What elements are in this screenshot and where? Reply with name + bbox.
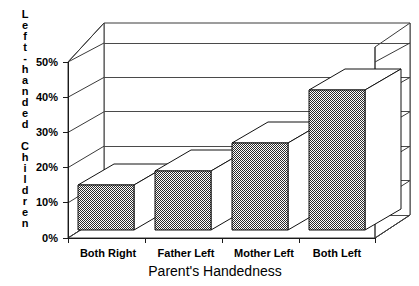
x-tick-label: Both Right: [80, 247, 137, 259]
y-tick-label: 20%: [36, 161, 58, 173]
y-axis: [63, 62, 68, 238]
x-tick-labels: Both Right Father Left Mother Left Both …: [80, 247, 362, 259]
x-tick-label: Both Left: [313, 247, 362, 259]
y-tick-label: 0%: [42, 232, 58, 244]
y-tick-label: 30%: [36, 126, 58, 138]
y-tick-label: 40%: [36, 91, 58, 103]
chart-canvas: 50% 40% 30% 20% 10% 0% Both Right Father…: [0, 0, 419, 286]
x-tick-label: Father Left: [158, 247, 215, 259]
x-tick-label: Mother Left: [234, 247, 294, 259]
y-axis-title-char: n: [22, 217, 29, 229]
y-tick-label: 50%: [36, 56, 58, 68]
x-axis-title: Parent's Handedness: [148, 263, 281, 279]
bar-chart-figure: 50% 40% 30% 20% 10% 0% Both Right Father…: [0, 0, 419, 286]
y-axis-title: L e f t - h a n d e d C h i l d r e n: [21, 8, 29, 229]
x-axis: [68, 238, 375, 243]
y-tick-labels: 50% 40% 30% 20% 10% 0%: [36, 56, 58, 244]
y-axis-title-char: d: [22, 118, 29, 130]
y-tick-label: 10%: [36, 196, 58, 208]
bar-both-left[interactable]: [309, 69, 401, 230]
